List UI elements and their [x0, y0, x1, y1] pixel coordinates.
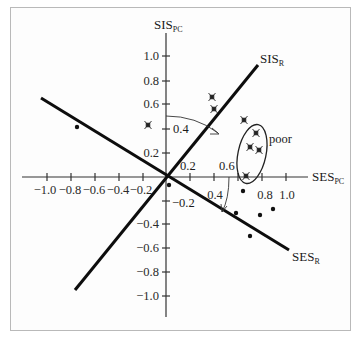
dot-marker-icon [167, 183, 171, 187]
x-tick-label: 0.8 [257, 188, 273, 202]
dot-marker-icon [75, 125, 79, 129]
dot-marker-icon [271, 207, 275, 211]
ses-r-axis [41, 98, 289, 250]
x-tick-label: 0.4 [207, 188, 223, 202]
poor-label: poor [269, 132, 293, 146]
x-tick-label: −0.4 [107, 183, 130, 197]
dot-marker-icon [248, 234, 252, 238]
x-marker-icon [145, 121, 152, 129]
x-marker-icon [253, 129, 260, 137]
y-tick-label: −0.4 [136, 217, 159, 231]
arrowhead-sis-icon [210, 128, 219, 134]
arc-ses-rotation [222, 177, 229, 212]
x-marker-icon [256, 146, 263, 154]
arc-angle-label: 0.4 [173, 122, 189, 136]
x-tick-labels: −1.0 −0.8 −0.6 −0.4 −0.2 0.4 0.8 1.0 [34, 183, 295, 202]
x-tick-label: −0.6 [83, 183, 106, 197]
sis-r-tick-label: 0.6 [219, 159, 235, 173]
y-tick-labels: 1.0 0.8 0.6 0.2 −0.4 −0.6 −0.8 −1.0 [136, 49, 159, 303]
crossed-markers [145, 93, 263, 180]
y-tick-label: 1.0 [143, 49, 159, 63]
x-tick-label: −1.0 [34, 183, 57, 197]
y-tick-label: −0.8 [136, 265, 159, 279]
dot-marker-icon [241, 189, 245, 193]
x-marker-icon [211, 105, 218, 113]
y-tick-label: 0.2 [143, 146, 159, 160]
x-tick-label: −0.8 [59, 183, 82, 197]
y-tick-label: 0.6 [143, 97, 159, 111]
y-tick-label: 0.8 [143, 74, 159, 88]
y-tick-label: −0.6 [136, 241, 159, 255]
x-tick-label: 1.0 [279, 188, 295, 202]
sis-r-tick-label: 0.2 [180, 159, 196, 173]
ses-r-axis-label: SESR [292, 249, 320, 266]
y-tick-label: −1.0 [136, 289, 159, 303]
sis-r-axis-label: SISR [260, 51, 285, 68]
dot-marker-icon [234, 211, 238, 215]
x-marker-icon [209, 93, 216, 101]
x-marker-icon [241, 116, 248, 124]
dot-marker-icon [258, 213, 262, 217]
x-axis-title: SESPC [312, 169, 344, 186]
y-axis-title: SISPC [154, 17, 183, 34]
scatter-plot: −1.0 −0.8 −0.6 −0.4 −0.2 0.4 0.8 1.0 1.0… [0, 0, 361, 337]
x-tick-label: −0.2 [130, 183, 153, 197]
ses-r-arc-label: −0.2 [172, 196, 195, 210]
x-marker-icon [243, 172, 250, 180]
x-marker-icon [247, 143, 254, 151]
